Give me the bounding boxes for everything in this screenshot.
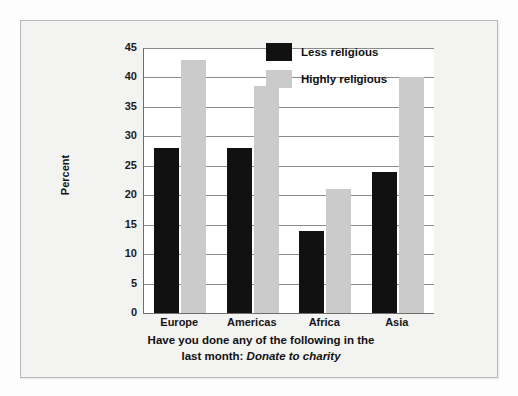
legend-label: Less religious [301, 46, 378, 58]
legend-item-less-religious: Less religious [266, 43, 416, 61]
chart-legend: Less religious Highly religious [266, 43, 416, 97]
legend-label: Highly religious [301, 73, 387, 85]
caption-line-2-prefix: last month: [181, 350, 246, 362]
y-tick-label: 0 [107, 307, 137, 318]
bar-americas-highly-religious [254, 86, 279, 313]
bar-asia-less-religious [372, 172, 397, 313]
y-tick-label: 15 [107, 219, 137, 230]
y-tick-label: 45 [107, 42, 137, 53]
bar-americas-less-religious [227, 148, 252, 313]
caption-line-1: Have you done any of the following in th… [148, 334, 375, 346]
x-axis-tick-labels: EuropeAmericasAfricaAsia [143, 316, 433, 334]
y-tick-label: 40 [107, 71, 137, 82]
y-tick-label: 25 [107, 160, 137, 171]
figure-container: Percent 051015202530354045 EuropeAmerica… [0, 0, 518, 396]
chart-caption: Have you done any of the following in th… [81, 333, 441, 364]
x-tick-label-africa: Africa [288, 316, 361, 328]
x-tick-label-asia: Asia [361, 316, 434, 328]
bar-europe-highly-religious [181, 60, 206, 313]
caption-line-2-italic: Donate to charity [247, 350, 341, 362]
x-tick-label-europe: Europe [143, 316, 216, 328]
y-tick-label: 20 [107, 189, 137, 200]
figure-frame: Percent 051015202530354045 EuropeAmerica… [20, 20, 498, 378]
y-tick-label: 5 [107, 278, 137, 289]
x-tick-label-americas: Americas [216, 316, 289, 328]
bar-europe-less-religious [154, 148, 179, 313]
bar-africa-less-religious [299, 231, 324, 313]
y-tick-label: 30 [107, 130, 137, 141]
y-axis-tick-labels: 051015202530354045 [105, 48, 137, 313]
y-axis-title: Percent [59, 125, 71, 225]
bar-asia-highly-religious [399, 77, 424, 313]
gray-swatch-icon [266, 70, 292, 88]
bar-africa-highly-religious [326, 189, 351, 313]
y-tick-label: 10 [107, 248, 137, 259]
y-tick-label: 35 [107, 101, 137, 112]
legend-item-highly-religious: Highly religious [266, 70, 416, 88]
black-swatch-icon [266, 43, 292, 61]
